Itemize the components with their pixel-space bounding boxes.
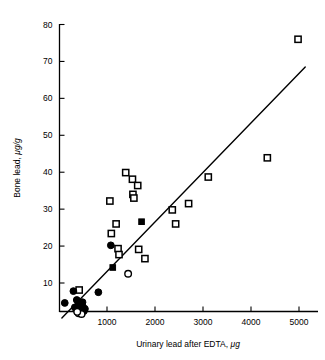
y-axis-ticks: 1020304050607080 [43,20,64,289]
data-point-filled-circle [107,242,114,249]
data-point-open-square [186,201,192,207]
data-point-open-circle [74,309,81,316]
x-axis-title: Urinary lead after EDTA, μg [136,339,240,349]
y-tick-label: 60 [43,93,53,103]
scatter-plot-figure: 1020304050607080 10002000300040005000 Ur… [0,0,325,360]
y-tick-label: 70 [43,56,53,66]
data-markers [61,36,301,317]
y-tick-label: 50 [43,130,53,140]
data-point-filled-circle [61,300,68,307]
plot-canvas: 1020304050607080 10002000300040005000 Ur… [0,0,325,360]
data-point-open-square [129,176,135,182]
regression-trend-line [62,67,305,318]
x-tick-label: 1000 [98,317,117,327]
data-point-open-square [169,207,175,213]
data-point-open-square [116,251,122,257]
data-point-open-square [113,221,119,227]
x-tick-label: 4000 [242,317,261,327]
data-point-open-square [205,174,211,180]
data-point-open-square [142,256,148,262]
y-tick-label: 30 [43,204,53,214]
data-point-open-square [173,221,179,227]
y-tick-label: 10 [43,278,53,288]
x-tick-label: 2000 [146,317,165,327]
x-tick-label: 3000 [194,317,213,327]
data-point-filled-square [139,219,145,225]
data-point-filled-square [110,265,116,271]
data-point-open-square [131,195,137,201]
data-point-open-square [108,230,114,236]
y-tick-label: 40 [43,167,53,177]
data-point-open-square [135,182,141,188]
data-point-filled-circle [95,289,102,296]
data-point-open-square [136,246,142,252]
data-point-open-square [264,155,270,161]
x-tick-label: 5000 [290,317,309,327]
data-point-open-square [295,36,301,42]
data-point-open-square [123,169,129,175]
data-point-open-square [107,198,113,204]
x-axis-ticks: 10002000300040005000 [98,307,309,327]
y-tick-label: 20 [43,241,53,251]
data-point-filled-circle [70,288,77,295]
data-point-open-circle [125,270,132,277]
y-tick-label: 80 [43,20,53,30]
y-axis-title: Bone lead, μg/g [12,138,22,198]
